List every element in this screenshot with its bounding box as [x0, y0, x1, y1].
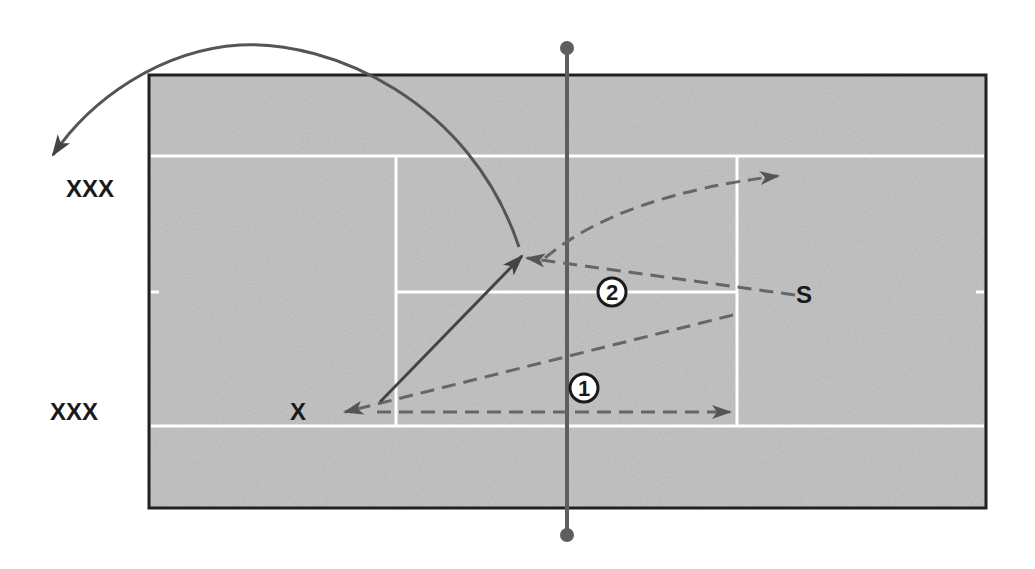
tennis-court-diagram: 2 1 XXX XXX X S: [0, 0, 1035, 569]
svg-text:1: 1: [578, 376, 590, 401]
player-x-label: X: [290, 398, 306, 425]
side-label-bottom: XXX: [50, 398, 98, 425]
step-marker-2: 2: [598, 278, 626, 306]
step-marker-1: 1: [570, 374, 598, 402]
net-post-top: [560, 41, 574, 55]
player-s-label: S: [796, 281, 812, 308]
svg-text:2: 2: [606, 280, 618, 305]
net-post-bottom: [560, 528, 574, 542]
side-label-top: XXX: [66, 175, 114, 202]
